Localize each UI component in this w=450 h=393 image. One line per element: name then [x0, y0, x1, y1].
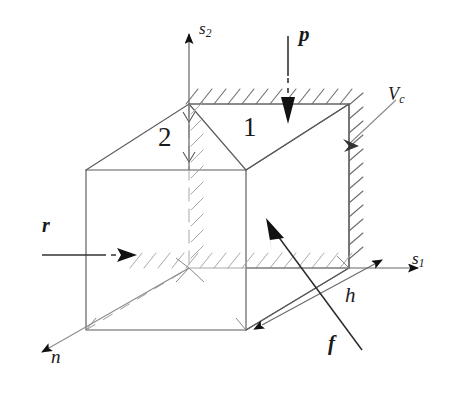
figure-canvas: s2 p Vc 2 1 r s1 h f n [0, 0, 450, 393]
hatching-interior-vertical [189, 102, 203, 268]
load-label-p: p [299, 24, 310, 45]
hatching-interior-horizontal [130, 253, 352, 268]
face-label-2: 2 [158, 124, 172, 151]
top-face-diagonal-split [189, 104, 246, 170]
axis-n [42, 268, 189, 352]
diagram-svg [0, 0, 450, 393]
dimension-arrow-h [262, 260, 382, 325]
cube-bottom-right-edge [246, 268, 349, 330]
velocity-label-vc: Vc [388, 85, 404, 103]
load-arrow-p [281, 36, 295, 124]
hatching-right-boundary [349, 93, 363, 259]
cube-right-face [246, 104, 349, 330]
axis-label-s2: s2 [199, 20, 211, 37]
hatching-top-boundary [186, 89, 352, 104]
load-label-r: r [42, 215, 50, 235]
cube-front-face [86, 170, 246, 330]
cube-wireframe [86, 104, 349, 330]
axis-label-s1: s1 [412, 250, 424, 267]
corner-tick-marks [86, 256, 349, 330]
velocity-leader-vc [343, 100, 396, 152]
dimension-label-h: h [345, 285, 356, 306]
load-arrow-r [42, 248, 137, 262]
axis-label-n: n [51, 347, 61, 366]
face-label-1: 1 [243, 114, 257, 141]
force-label-f: f [328, 333, 335, 354]
